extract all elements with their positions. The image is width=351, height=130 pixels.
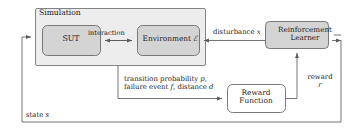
reward-arrow	[286, 53, 297, 99]
reinforcement-learner-node[interactable]	[266, 22, 329, 49]
reward-function-node[interactable]	[228, 85, 286, 113]
environment-node[interactable]	[138, 26, 200, 56]
observation-arrow	[118, 66, 222, 99]
sut-node[interactable]	[43, 26, 101, 56]
diagram-canvas: Simulation SUT Environment ℰ Reinforceme…	[0, 0, 351, 130]
diagram-vector-layer	[0, 0, 351, 130]
